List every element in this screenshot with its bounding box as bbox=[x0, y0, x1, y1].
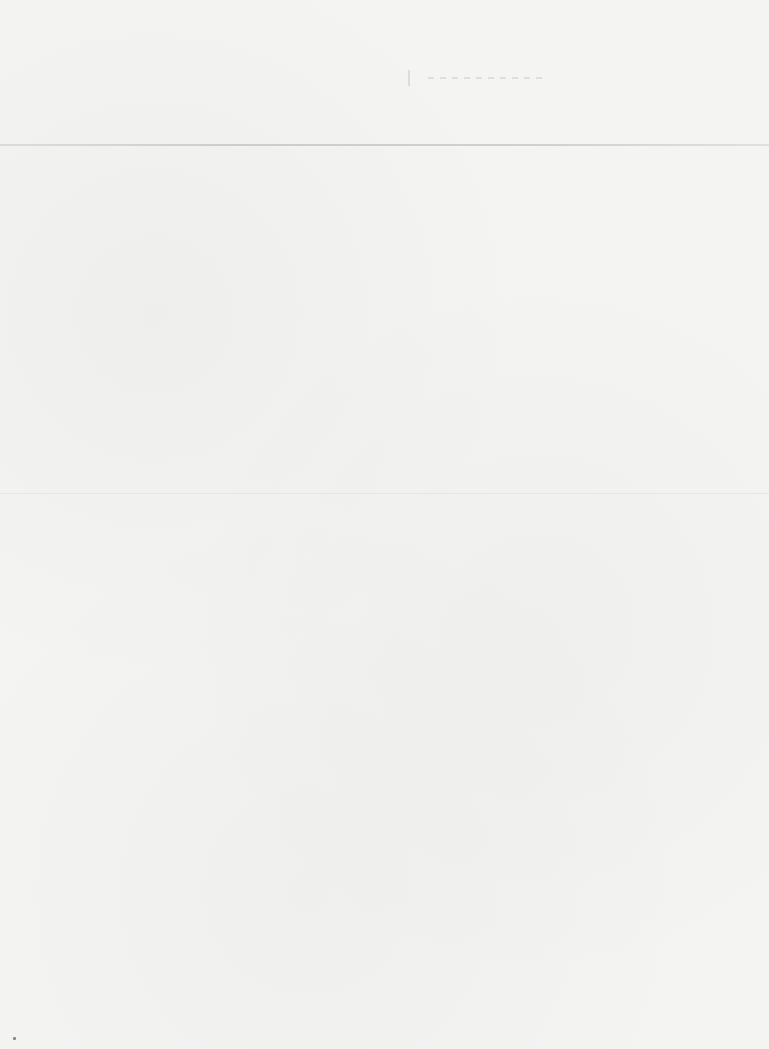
faded-header-text bbox=[408, 66, 558, 88]
scanned-page bbox=[0, 0, 769, 1049]
header-stroke bbox=[408, 70, 410, 86]
header-faint-marks bbox=[428, 77, 548, 79]
faint-fold-line bbox=[0, 493, 769, 494]
header-rule bbox=[0, 144, 769, 146]
scan-speck bbox=[13, 1037, 16, 1040]
